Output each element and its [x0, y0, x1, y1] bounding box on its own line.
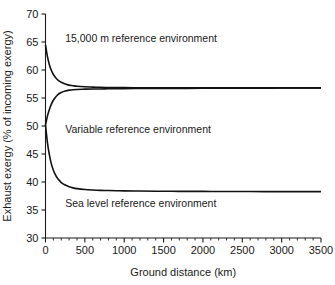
y-tick-label-60: 60 [26, 64, 38, 76]
x-tick-label-3500: 3500 [309, 244, 333, 256]
y-tick-label-40: 40 [26, 176, 38, 188]
x-tick-label-1500: 1500 [151, 244, 175, 256]
chart-plot-area: 303540455055606570 050010001500200025003… [0, 0, 335, 285]
x-tick-label-3000: 3000 [269, 244, 293, 256]
y-tick-label-65: 65 [26, 36, 38, 48]
y-axis-tick-labels: 303540455055606570 [26, 8, 38, 244]
exhaust-exergy-chart-figure: 303540455055606570 050010001500200025003… [0, 0, 335, 285]
x-tick-label-1000: 1000 [112, 244, 136, 256]
series-annotation-2: Sea level reference environment [65, 197, 216, 209]
x-tick-label-2000: 2000 [191, 244, 215, 256]
x-axis-title: Ground distance (km) [130, 266, 236, 278]
series-annotation-0: 15,000 m reference environment [65, 32, 217, 44]
y-tick-label-45: 45 [26, 148, 38, 160]
y-tick-label-55: 55 [26, 92, 38, 104]
x-tick-label-2500: 2500 [230, 244, 254, 256]
y-tick-label-30: 30 [26, 232, 38, 244]
y-tick-label-35: 35 [26, 204, 38, 216]
x-tick-label-0: 0 [42, 244, 48, 256]
y-axis-title: Exhaust exergy (% of incoming exergy) [1, 30, 13, 221]
y-tick-label-70: 70 [26, 8, 38, 20]
x-tick-label-500: 500 [76, 244, 94, 256]
y-tick-label-50: 50 [26, 120, 38, 132]
series-annotation-1: Variable reference environment [65, 123, 211, 135]
